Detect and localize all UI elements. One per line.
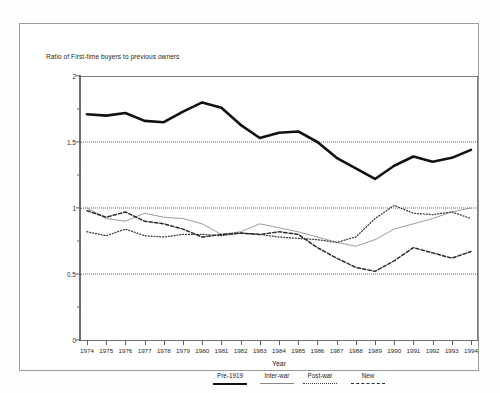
x-axis-tick xyxy=(106,340,107,345)
legend-item-post-war[interactable]: Post-war xyxy=(296,372,344,388)
legend-label: New xyxy=(344,372,392,379)
x-axis-tick-label: 1977 xyxy=(138,347,152,354)
x-axis-tick-label: 1984 xyxy=(272,347,286,354)
x-axis-tick xyxy=(260,340,261,345)
y-axis-tick-label: 0 xyxy=(50,337,76,344)
legend-swatch-dashed xyxy=(351,383,385,388)
x-axis-tick xyxy=(298,340,299,345)
x-axis-tick-label: 1987 xyxy=(330,347,344,354)
y-axis-tick-label: 1.5 xyxy=(50,139,76,146)
x-axis-tick-label: 1994 xyxy=(464,347,478,354)
y-axis-tick-label: 0.5 xyxy=(50,271,76,278)
legend-swatch-thick-solid xyxy=(213,383,247,389)
x-axis-tick-label: 1992 xyxy=(426,347,440,354)
chart-title: Ratio of First-time buyers to previous o… xyxy=(46,53,179,60)
x-axis-tick-label: 1978 xyxy=(157,347,171,354)
legend-label: Post-war xyxy=(296,372,344,379)
x-axis-tick xyxy=(452,340,453,345)
legend-item-pre-1919[interactable]: Pre-1919 xyxy=(206,372,254,389)
legend-swatch-dotted xyxy=(303,383,337,388)
x-axis-tick-label: 1979 xyxy=(176,347,190,354)
legend-item-new[interactable]: New xyxy=(344,372,392,388)
x-axis-tick-label: 1982 xyxy=(234,347,248,354)
x-axis-tick xyxy=(317,340,318,345)
legend-item-inter-war[interactable]: Inter-war xyxy=(253,372,301,388)
chart-page: Ratio of First-time buyers to previous o… xyxy=(0,0,500,393)
x-axis-tick xyxy=(202,340,203,345)
x-axis-tick xyxy=(394,340,395,345)
x-axis-tick xyxy=(221,340,222,345)
x-axis-tick-label: 1981 xyxy=(215,347,229,354)
x-axis-tick xyxy=(145,340,146,345)
legend-label: Inter-war xyxy=(253,372,301,379)
x-axis-title: Year xyxy=(80,360,478,367)
series-line-pre-1919 xyxy=(87,102,471,179)
x-axis-tick xyxy=(433,340,434,345)
x-axis-tick xyxy=(241,340,242,345)
x-axis-tick xyxy=(87,340,88,345)
x-axis-tick-label: 1985 xyxy=(291,347,305,354)
y-axis-tick-label: 1 xyxy=(50,205,76,212)
x-axis-tick xyxy=(375,340,376,345)
x-axis-tick-label: 1974 xyxy=(80,347,94,354)
x-axis-tick-label: 1976 xyxy=(119,347,133,354)
x-axis-tick-label: 1990 xyxy=(387,347,401,354)
y-axis-tick-label: 2 xyxy=(50,73,76,80)
x-axis-tick-label: 1991 xyxy=(407,347,421,354)
series-lines xyxy=(80,76,478,340)
x-axis-tick xyxy=(279,340,280,345)
x-axis-tick xyxy=(183,340,184,345)
x-axis-tick xyxy=(164,340,165,345)
chart-legend: Pre-1919Inter-warPost-warNew xyxy=(80,372,478,392)
x-axis-tick-label: 1993 xyxy=(445,347,459,354)
x-axis-tick xyxy=(125,340,126,345)
x-axis-tick-label: 1989 xyxy=(368,347,382,354)
x-axis-tick xyxy=(471,340,472,345)
series-line-new xyxy=(87,211,471,272)
x-axis-tick-label: 1975 xyxy=(99,347,113,354)
plot-area: 00.511.52 197419751976197719781979198019… xyxy=(80,76,478,340)
x-axis-tick xyxy=(337,340,338,345)
x-axis-tick xyxy=(356,340,357,345)
series-line-inter-war xyxy=(87,208,471,246)
figure-frame: Ratio of First-time buyers to previous o… xyxy=(19,23,479,371)
x-axis-tick-label: 1983 xyxy=(253,347,267,354)
legend-swatch-thin-solid xyxy=(260,383,294,388)
x-axis-tick xyxy=(413,340,414,345)
x-axis-tick-label: 1980 xyxy=(195,347,209,354)
legend-label: Pre-1919 xyxy=(206,372,254,379)
x-axis-tick-label: 1988 xyxy=(349,347,363,354)
x-axis-tick-label: 1986 xyxy=(311,347,325,354)
